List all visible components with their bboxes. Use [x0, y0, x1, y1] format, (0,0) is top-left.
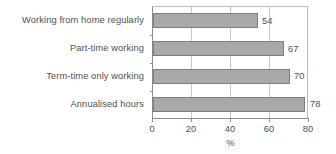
- x-axis-tick-label: 60: [264, 124, 274, 134]
- category-label: Term-time only working: [46, 71, 144, 81]
- x-axis-tick-20: [191, 118, 192, 122]
- bar: [153, 13, 258, 28]
- bar-value-label: 67: [288, 44, 298, 54]
- bar-value-label: 54: [262, 16, 272, 26]
- category-label: Working from home regularly: [22, 15, 144, 25]
- x-axis-tick-40: [230, 118, 231, 122]
- bar-row: 54: [153, 7, 307, 35]
- plot-area: 54 67 70 78: [152, 6, 308, 118]
- bar-row: 70: [153, 63, 307, 91]
- x-axis-tick-60: [269, 118, 270, 122]
- bar-series: 54 67 70 78: [153, 7, 307, 118]
- x-axis-tick-80: [308, 118, 309, 122]
- bar-row: 67: [153, 35, 307, 63]
- x-axis-tick-0: [152, 118, 153, 122]
- category-label: Part-time working: [70, 43, 144, 53]
- category-label-row: Annualised hours: [0, 90, 148, 118]
- x-axis-tick-label: 40: [225, 124, 235, 134]
- bar-row: 78: [153, 90, 307, 118]
- bar: [153, 41, 284, 56]
- category-label-row: Part-time working: [0, 34, 148, 62]
- category-axis-labels: Working from home regularly Part-time wo…: [0, 6, 148, 118]
- bar-chart: Working from home regularly Part-time wo…: [0, 0, 336, 154]
- bar-value-label: 70: [294, 71, 304, 81]
- category-label: Annualised hours: [71, 99, 144, 109]
- x-axis-tick-label: 0: [149, 124, 154, 134]
- bar: [153, 97, 305, 112]
- x-axis-tick-label: 20: [186, 124, 196, 134]
- category-label-row: Term-time only working: [0, 62, 148, 90]
- category-label-row: Working from home regularly: [0, 6, 148, 34]
- x-axis-title: %: [152, 138, 309, 148]
- x-axis-tick-label: 80: [303, 124, 313, 134]
- bar-value-label: 78: [310, 99, 320, 109]
- bar: [153, 69, 290, 84]
